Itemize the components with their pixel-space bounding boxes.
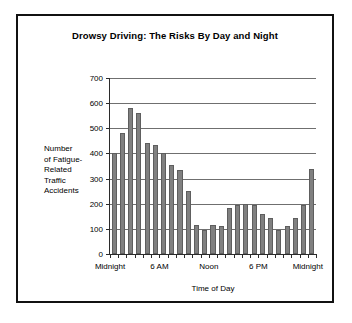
x-tick-mark [250, 254, 251, 258]
x-tick-mark [234, 254, 235, 258]
bar [120, 133, 125, 254]
bar [153, 145, 158, 254]
bar [169, 165, 174, 254]
y-tick-label: 500 [90, 124, 103, 133]
x-tick-label: 6 PM [249, 262, 268, 271]
y-tick-label: 400 [90, 149, 103, 158]
bar [309, 169, 314, 254]
bar [136, 113, 141, 254]
y-tick-label: 100 [90, 224, 103, 233]
bar [260, 214, 265, 254]
bar [161, 153, 166, 254]
bar [186, 191, 191, 254]
x-tick-mark [275, 254, 276, 258]
bar [243, 204, 248, 254]
x-tick-mark [176, 254, 177, 258]
x-tick-mark [267, 254, 268, 258]
x-tick-mark [192, 254, 193, 258]
bar [268, 218, 273, 254]
y-tick-label: 200 [90, 199, 103, 208]
bar [285, 226, 290, 254]
bar [128, 108, 133, 254]
x-tick-mark [135, 254, 136, 258]
x-tick-mark [283, 254, 284, 258]
x-axis-title: Time of Day [110, 284, 316, 293]
bar [210, 225, 215, 254]
figure-frame: Drowsy Driving: The Risks By Day and Nig… [16, 14, 334, 303]
x-tick-mark [143, 254, 144, 258]
x-tick-mark [201, 254, 202, 258]
y-tick-label: 300 [90, 174, 103, 183]
bar [202, 230, 207, 254]
bar [235, 205, 240, 254]
bar [112, 153, 117, 254]
x-tick-mark [225, 254, 226, 258]
bar-series [110, 78, 316, 254]
bar [177, 170, 182, 254]
x-tick-mark [308, 254, 309, 258]
y-tick-label: 700 [90, 74, 103, 83]
x-tick-label: Midnight [293, 262, 323, 271]
x-tick-mark [242, 254, 243, 258]
x-tick-mark [300, 254, 301, 258]
x-tick-mark [184, 254, 185, 258]
x-tick-mark [110, 254, 111, 258]
gridline [110, 254, 316, 255]
x-tick-mark [159, 254, 160, 258]
bar [194, 225, 199, 254]
bar [276, 230, 281, 254]
bar [219, 226, 224, 254]
x-tick-mark [316, 254, 317, 258]
bar [293, 218, 298, 254]
bar [301, 205, 306, 254]
bar [227, 208, 232, 255]
bar [145, 143, 150, 254]
x-tick-label: Midnight [95, 262, 125, 271]
x-tick-mark [217, 254, 218, 258]
x-tick-mark [258, 254, 259, 258]
y-tick-label: 600 [90, 99, 103, 108]
x-tick-mark [118, 254, 119, 258]
x-tick-label: Noon [199, 262, 218, 271]
y-tick-label: 0 [99, 250, 103, 259]
y-axis-title-line: Accidents [44, 186, 106, 197]
x-tick-mark [168, 254, 169, 258]
x-tick-mark [291, 254, 292, 258]
x-tick-mark [209, 254, 210, 258]
x-tick-mark [151, 254, 152, 258]
x-tick-label: 6 AM [150, 262, 168, 271]
bar [252, 205, 257, 254]
plot-area: 7006005004003002001000 Midnight6 AMNoon6… [110, 78, 316, 254]
x-tick-mark [126, 254, 127, 258]
chart-title: Drowsy Driving: The Risks By Day and Nig… [18, 30, 332, 41]
